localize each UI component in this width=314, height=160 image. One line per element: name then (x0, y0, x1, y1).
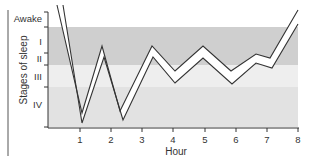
x-label-8: 8 (295, 134, 300, 145)
sleep-stages-chart: Awake I II III IV Stages of sleep 1 2 3 … (0, 0, 314, 160)
x-label-2: 2 (108, 134, 113, 145)
x-label-4: 4 (170, 134, 175, 145)
y-axis-title: Stages of sleep (18, 35, 29, 104)
y-label-iii: III (34, 71, 42, 82)
x-ticks (80, 128, 298, 132)
y-label-awake: Awake (14, 13, 42, 24)
y-label-ii: II (37, 53, 42, 64)
x-label-5: 5 (202, 134, 207, 145)
x-axis-title: Hour (165, 146, 187, 157)
x-label-3: 3 (139, 134, 144, 145)
x-label-7: 7 (264, 134, 269, 145)
y-label-iv: IV (33, 99, 43, 110)
x-label-6: 6 (233, 134, 238, 145)
x-label-1: 1 (77, 134, 82, 145)
y-label-i: I (39, 36, 42, 47)
